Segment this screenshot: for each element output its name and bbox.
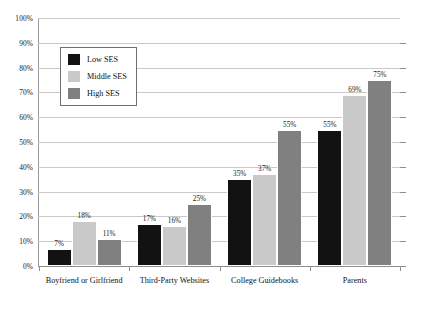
- bar[interactable]: [162, 226, 187, 266]
- y-axis-tick-label: 70%: [0, 88, 33, 97]
- bar-slot: 69%: [342, 18, 367, 266]
- bar-value-label: 17%: [143, 215, 156, 223]
- x-axis-category-label: College Guidebooks: [231, 276, 298, 285]
- bar-group: 17%16%25%: [129, 18, 219, 266]
- bar-value-label: 69%: [348, 86, 361, 94]
- legend-swatch-icon: [68, 54, 80, 65]
- bar[interactable]: [252, 174, 277, 266]
- bar[interactable]: [342, 95, 367, 266]
- x-axis-tick: [220, 266, 221, 271]
- right-axis-tick: [400, 167, 406, 168]
- y-axis-tick-label: 40%: [0, 162, 33, 171]
- bar-slot: 17%: [137, 18, 162, 266]
- right-axis-tick: [400, 68, 406, 69]
- bar-chart: 100%90%80%70%60%50%40%30%20%10%0% 7%18%1…: [0, 0, 429, 310]
- bar[interactable]: [277, 130, 302, 266]
- right-axis-tick: [400, 241, 406, 242]
- bar-value-label: 55%: [323, 121, 336, 129]
- bar[interactable]: [187, 204, 212, 266]
- right-axis-tick: [400, 117, 406, 118]
- y-axis-tick-label: 90%: [0, 38, 33, 47]
- x-axis-tick: [39, 266, 40, 271]
- bar[interactable]: [137, 224, 162, 266]
- x-axis-tick: [400, 266, 401, 271]
- legend-label: Middle SES: [87, 72, 127, 81]
- legend: Low SESMiddle SESHigh SES: [60, 47, 137, 106]
- bar-slot: 16%: [162, 18, 187, 266]
- x-axis-tick: [310, 266, 311, 271]
- legend-swatch-icon: [68, 71, 80, 82]
- bar[interactable]: [367, 80, 392, 266]
- y-axis-tick-label: 50%: [0, 138, 33, 147]
- bar[interactable]: [227, 179, 252, 266]
- bar-slot: 55%: [317, 18, 342, 266]
- x-axis-category-label: Parents: [343, 276, 367, 285]
- bar-value-label: 37%: [258, 165, 271, 173]
- bar-value-label: 35%: [233, 170, 246, 178]
- y-axis-tick-label: 100%: [0, 14, 33, 23]
- legend-swatch-icon: [68, 88, 80, 99]
- bar[interactable]: [317, 130, 342, 266]
- y-axis-tick-label: 80%: [0, 63, 33, 72]
- bar[interactable]: [72, 221, 97, 266]
- legend-label: High SES: [87, 89, 120, 98]
- bar-value-label: 55%: [283, 121, 296, 129]
- right-axis-tick: [400, 142, 406, 143]
- x-axis-category-label: Boyfriend or Girlfriend: [46, 276, 123, 285]
- legend-item[interactable]: Low SES: [68, 54, 127, 65]
- bar-group: 35%37%55%: [220, 18, 310, 266]
- x-axis-category-label: Third-Party Websites: [140, 276, 209, 285]
- legend-label: Low SES: [87, 55, 118, 64]
- y-axis-tick-label: 30%: [0, 187, 33, 196]
- bar[interactable]: [47, 249, 72, 266]
- bar-value-label: 75%: [373, 71, 386, 79]
- bar-slot: 35%: [227, 18, 252, 266]
- bar-slot: 75%: [367, 18, 392, 266]
- bar-value-label: 11%: [103, 230, 116, 238]
- bar-value-label: 16%: [168, 217, 181, 225]
- right-axis-tick: [400, 92, 406, 93]
- legend-item[interactable]: High SES: [68, 88, 127, 99]
- bar-slot: 55%: [277, 18, 302, 266]
- bar-value-label: 25%: [193, 195, 206, 203]
- legend-item[interactable]: Middle SES: [68, 71, 127, 82]
- y-axis-tick-label: 10%: [0, 237, 33, 246]
- right-axis-tick: [400, 192, 406, 193]
- x-axis-tick: [129, 266, 130, 271]
- y-axis-tick-label: 0%: [0, 262, 33, 271]
- y-axis-tick-label: 20%: [0, 212, 33, 221]
- bar-slot: 37%: [252, 18, 277, 266]
- right-axis-tick: [400, 216, 406, 217]
- bar-slot: 25%: [187, 18, 212, 266]
- bar-value-label: 18%: [78, 212, 91, 220]
- bar[interactable]: [97, 239, 122, 266]
- bar-group: 55%69%75%: [310, 18, 400, 266]
- y-axis-tick-label: 60%: [0, 113, 33, 122]
- right-axis-tick: [400, 43, 406, 44]
- bar-value-label: 7%: [54, 240, 64, 248]
